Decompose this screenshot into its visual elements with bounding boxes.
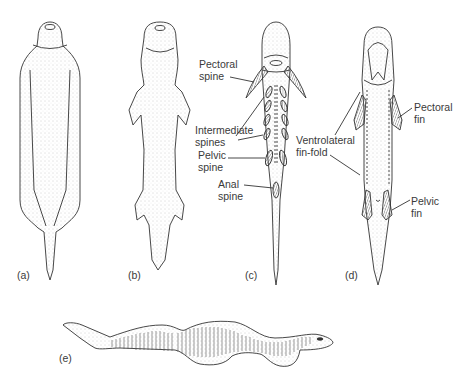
annotation-ventrolateral-fin-fold: Ventrolateral fin-fold <box>296 134 355 158</box>
annotation-pectoral-fin: Pectoral fin <box>414 101 453 125</box>
annotation-anal-spine: Anal spine <box>218 178 243 202</box>
figure: (a) (b) (c) (d) (e) Pectoral spine Inter… <box>0 0 467 376</box>
panel-label-c: (c) <box>245 269 257 281</box>
fish-e-lateral-view <box>63 321 333 366</box>
panel-label-e: (e) <box>59 352 72 364</box>
panel-label-a: (a) <box>17 269 30 281</box>
annotation-intermediate-spines: Intermediate spines <box>195 124 253 148</box>
annotation-pelvic-fin: Pelvic fin <box>411 195 439 219</box>
panel-label-d: (d) <box>345 269 358 281</box>
fish-b-dorsal-view <box>129 22 190 270</box>
fish-c-ventral-view <box>228 22 306 285</box>
fish-a-dorsal-view <box>20 22 80 280</box>
annotation-pectoral-spine: Pectoral spine <box>199 58 238 82</box>
annotation-pelvic-spine: Pelvic spine <box>198 149 226 173</box>
panel-label-b: (b) <box>128 269 141 281</box>
